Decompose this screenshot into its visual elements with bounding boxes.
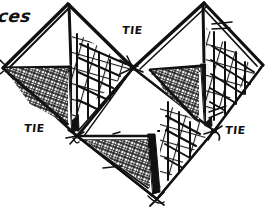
sketch-canvas: ces TIE TIE TIE	[0, 0, 266, 215]
label-tie-top-center: TIE	[121, 24, 143, 37]
label-tie-bottom-right: TIE	[224, 124, 246, 137]
label-partial-word: ces	[0, 6, 33, 26]
label-tie-bottom-left: TIE	[23, 122, 45, 135]
